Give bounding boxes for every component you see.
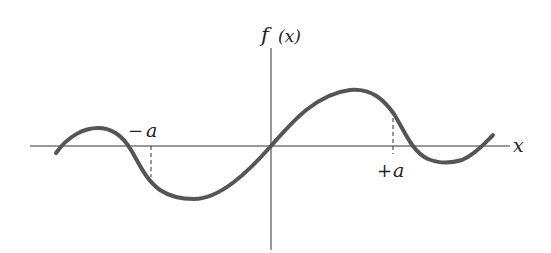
x-axis-label: x bbox=[513, 134, 524, 156]
neg-a-sign: − bbox=[128, 120, 143, 141]
pos-a-sign: + bbox=[377, 160, 392, 181]
y-axis-label-f: f bbox=[259, 23, 272, 47]
function-plot: f (x) x − a + a bbox=[0, 0, 551, 253]
y-axis-label-x: (x) bbox=[278, 26, 301, 46]
neg-a-letter: a bbox=[146, 119, 157, 141]
function-curve bbox=[56, 90, 493, 199]
pos-a-letter: a bbox=[393, 159, 404, 181]
